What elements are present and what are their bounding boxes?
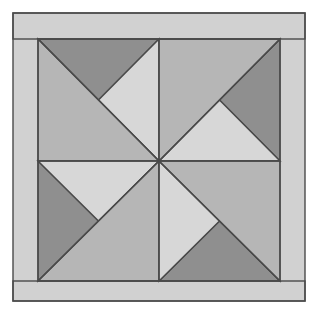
quilt-block-svg bbox=[0, 0, 317, 314]
left-border-strip bbox=[13, 39, 38, 281]
top-border-strip bbox=[13, 13, 305, 39]
right-border-strip bbox=[280, 39, 305, 281]
bottom-border-strip bbox=[13, 281, 305, 301]
quilt-block-figure bbox=[0, 0, 317, 314]
